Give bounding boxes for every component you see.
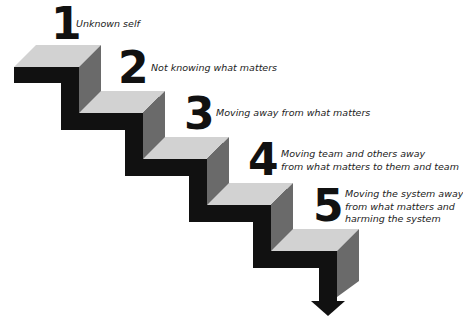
step-4-number: 4: [248, 140, 277, 180]
step-2-number: 2: [118, 48, 147, 88]
step-5-label: Moving the system away from what matters…: [345, 188, 463, 226]
step-3-number: 3: [184, 94, 213, 134]
step-4-label: Moving team and others away from what ma…: [281, 148, 459, 173]
step-5-number: 5: [313, 186, 342, 226]
step-1-label: Unknown self: [76, 18, 140, 31]
step-2-label: Not knowing what matters: [151, 62, 277, 75]
step-3-label: Moving away from what matters: [216, 107, 370, 120]
